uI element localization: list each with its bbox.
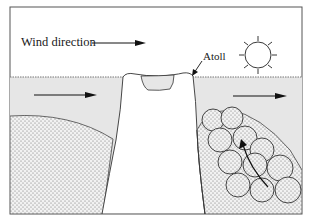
atoll-diagram	[0, 0, 312, 222]
wind-direction-label: Wind direction	[21, 35, 96, 50]
left-seamount	[10, 115, 113, 214]
lagoon	[141, 75, 174, 90]
atoll-label: Atoll	[203, 50, 226, 62]
